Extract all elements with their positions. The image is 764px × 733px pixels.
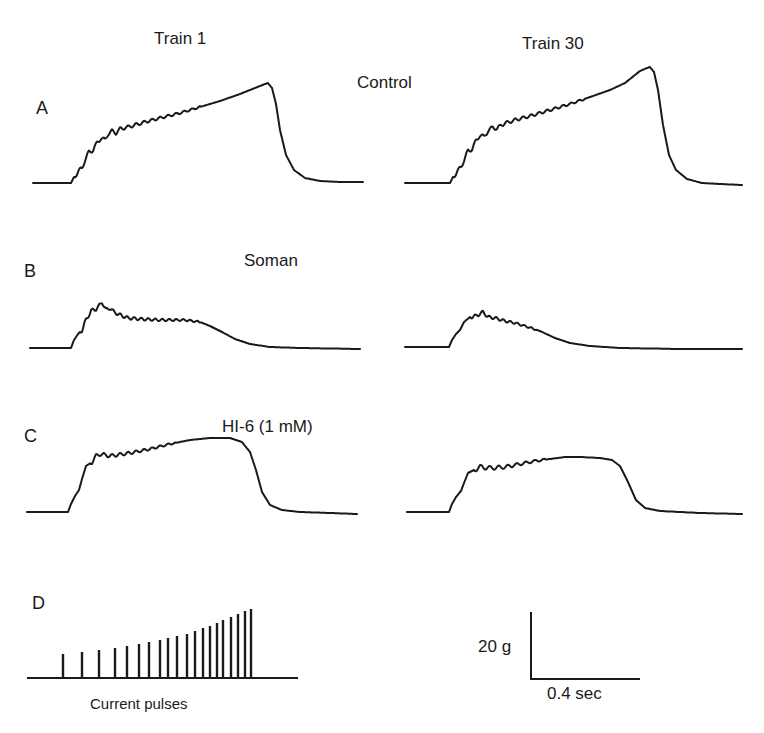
trace-a-train-30 — [405, 67, 742, 185]
trace-b-train-1 — [30, 303, 360, 349]
current-pulse-train — [27, 609, 298, 678]
trace-a-train-1 — [33, 83, 363, 183]
tension-traces — [27, 67, 742, 514]
figure-canvas — [0, 0, 764, 733]
trace-c-train-1 — [27, 438, 357, 514]
scale-bar — [531, 612, 640, 679]
trace-c-train-30 — [407, 457, 742, 514]
trace-b-train-30 — [405, 311, 742, 349]
scale-bar-lines — [531, 612, 640, 679]
